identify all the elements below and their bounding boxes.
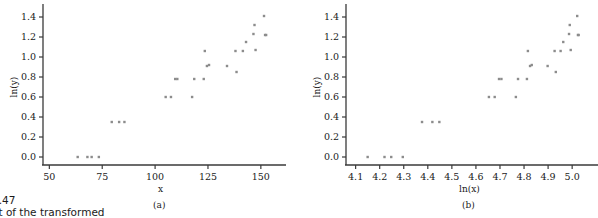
- data-point: [546, 65, 548, 67]
- panel-label-b: (b): [462, 200, 475, 210]
- panel-label-a: (a): [153, 200, 165, 210]
- data-point: [390, 156, 392, 158]
- data-point: [203, 78, 205, 80]
- data-point: [98, 156, 100, 158]
- data-point: [500, 78, 502, 80]
- data-point: [576, 15, 578, 17]
- x-tick-label: 50: [43, 171, 55, 182]
- x-tick-label: 5.0: [565, 171, 580, 182]
- data-point: [570, 49, 572, 51]
- x-tick-label: 4.6: [468, 171, 483, 182]
- x-tick-label: 4.3: [396, 171, 411, 182]
- y-axis-label-a: ln(y): [9, 65, 19, 109]
- data-point: [438, 121, 440, 123]
- data-point: [90, 156, 92, 158]
- data-point: [252, 33, 254, 35]
- y-tick-label: 0.2: [21, 131, 36, 142]
- data-point: [76, 156, 78, 158]
- data-point: [170, 96, 172, 98]
- scatter-plot-b: 0.00.20.40.60.81.01.21.44.14.24.34.44.54…: [299, 0, 598, 218]
- data-point: [577, 34, 579, 36]
- data-point: [527, 50, 529, 52]
- data-point: [265, 34, 267, 36]
- data-point: [164, 96, 166, 98]
- x-tick-label: 4.2: [372, 171, 387, 182]
- data-point: [204, 50, 206, 52]
- data-point: [493, 96, 495, 98]
- data-point: [526, 78, 528, 80]
- data-point: [234, 50, 236, 52]
- data-point: [208, 64, 210, 66]
- y-tick-label: 0.8: [324, 71, 339, 82]
- data-point: [176, 78, 178, 80]
- data-point: [488, 96, 490, 98]
- data-point: [421, 121, 423, 123]
- x-tick-label: 125: [199, 171, 217, 182]
- y-tick-label: 1.2: [21, 31, 36, 42]
- data-point: [562, 41, 564, 43]
- data-point: [263, 15, 265, 17]
- y-tick-label: 0.8: [21, 71, 36, 82]
- y-tick-label: 0.6: [324, 91, 339, 102]
- y-axis-label-b: ln(y): [312, 65, 322, 109]
- scatter-panel-a: 0.00.20.40.60.81.01.21.45075100125150 ln…: [0, 0, 299, 218]
- x-tick-label: 100: [146, 171, 164, 182]
- y-tick-label: 1.4: [21, 11, 36, 22]
- x-axis-label-b: ln(x): [459, 184, 480, 194]
- x-tick-label: 4.1: [348, 171, 363, 182]
- x-tick-label: 4.8: [516, 171, 531, 182]
- data-point: [242, 50, 244, 52]
- data-point: [86, 156, 88, 158]
- data-point: [226, 65, 228, 67]
- figure-caption-line-1: 4.47: [0, 194, 105, 206]
- x-tick-label: 4.4: [420, 171, 435, 182]
- data-point: [123, 121, 125, 123]
- scatter-plot-a: 0.00.20.40.60.81.01.21.45075100125150: [0, 0, 299, 218]
- data-point: [245, 41, 247, 43]
- y-tick-label: 1.4: [324, 11, 339, 22]
- y-tick-label: 1.0: [324, 51, 339, 62]
- x-tick-label: 150: [252, 171, 270, 182]
- data-point: [517, 78, 519, 80]
- data-point: [111, 121, 113, 123]
- y-tick-label: 0.0: [21, 151, 36, 162]
- x-tick-label: 75: [96, 171, 108, 182]
- data-point: [568, 33, 570, 35]
- y-tick-label: 1.0: [21, 51, 36, 62]
- data-point: [569, 24, 571, 26]
- y-tick-label: 0.4: [324, 111, 339, 122]
- data-point: [531, 64, 533, 66]
- x-tick-label: 4.9: [541, 171, 556, 182]
- data-point: [431, 121, 433, 123]
- data-point: [174, 78, 176, 80]
- y-tick-label: 0.4: [21, 111, 36, 122]
- y-tick-label: 0.0: [324, 151, 339, 162]
- data-point: [253, 24, 255, 26]
- data-point: [366, 156, 368, 158]
- data-point: [498, 78, 500, 80]
- scatter-panel-b: 0.00.20.40.60.81.01.21.44.14.24.34.44.54…: [299, 0, 598, 218]
- figure-4-47: 0.00.20.40.60.81.01.21.45075100125150 ln…: [0, 0, 598, 218]
- data-point: [402, 156, 404, 158]
- x-tick-label: 4.7: [492, 171, 507, 182]
- data-point: [559, 50, 561, 52]
- x-axis-label-a: x: [158, 184, 163, 194]
- y-tick-label: 0.6: [21, 91, 36, 102]
- data-point: [118, 121, 120, 123]
- data-point: [191, 96, 193, 98]
- data-point: [193, 78, 195, 80]
- data-point: [515, 96, 517, 98]
- figure-caption: 4.47 ot of the transformed: [0, 194, 105, 218]
- data-point: [555, 71, 557, 73]
- y-tick-label: 0.2: [324, 131, 339, 142]
- data-point: [254, 49, 256, 51]
- data-point: [206, 65, 208, 67]
- data-point: [235, 71, 237, 73]
- x-tick-label: 4.5: [444, 171, 459, 182]
- data-point: [553, 50, 555, 52]
- y-tick-label: 1.2: [324, 31, 339, 42]
- data-point: [383, 156, 385, 158]
- figure-caption-line-2: ot of the transformed: [0, 206, 105, 218]
